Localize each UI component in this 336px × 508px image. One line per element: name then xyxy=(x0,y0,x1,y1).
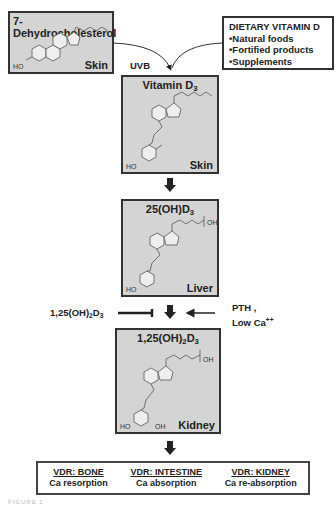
25-oh-d3-box: 25(OH)D3 OH HO Liver xyxy=(121,199,219,297)
ho-label: HO xyxy=(126,163,137,170)
oh-label: OH xyxy=(155,423,166,430)
oh-label: OH xyxy=(207,219,218,226)
location-label: Liver xyxy=(187,282,213,294)
down-arrow-icon xyxy=(164,441,176,455)
oh-label: OH xyxy=(203,356,214,363)
dietary-title: DIETARY VITAMIN D xyxy=(229,21,327,33)
vitamin-d3-box: Vitamin D3 HO Skin xyxy=(121,75,219,174)
down-arrow-icon xyxy=(164,305,176,319)
ho-label: HO xyxy=(126,286,137,293)
ho-label: HO xyxy=(120,423,131,430)
calcitriol-box: 1,25(OH)2D3 OH HO OH Kidney xyxy=(115,328,221,434)
dietary-item: •Supplements xyxy=(229,56,327,68)
figure-caption: FIGURE 1 xyxy=(8,499,44,505)
down-arrow-icon xyxy=(164,178,176,192)
uvb-label: UVB xyxy=(130,60,150,71)
vdr-intestine: VDR: INTESTINE Ca absorption xyxy=(130,467,202,489)
dietary-item: •Fortified products xyxy=(229,44,327,56)
vdr-bone: VDR: BONE Ca resorption xyxy=(49,467,108,489)
ho-label: HO xyxy=(13,63,24,70)
location-label: Skin xyxy=(190,159,213,171)
dietary-vitamin-d-box: DIETARY VITAMIN D •Natural foods •Fortif… xyxy=(222,16,334,70)
vdr-kidney: VDR: KIDNEY Ca re-absorption xyxy=(225,467,297,489)
location-label: Skin xyxy=(85,59,108,71)
inhibitor-label: 1,25(OH)2D3 xyxy=(50,307,103,319)
dietary-curve xyxy=(172,43,222,68)
dehydrocholesterol-box: 7-Dehydrocholesterol HO Skin xyxy=(8,11,114,74)
location-label: Kidney xyxy=(178,419,215,431)
pth-label: PTH , Low Ca++ xyxy=(232,302,274,329)
dietary-item: •Natural foods xyxy=(229,33,327,45)
vdr-effects-box: VDR: BONE Ca resorption VDR: INTESTINE C… xyxy=(36,461,310,495)
